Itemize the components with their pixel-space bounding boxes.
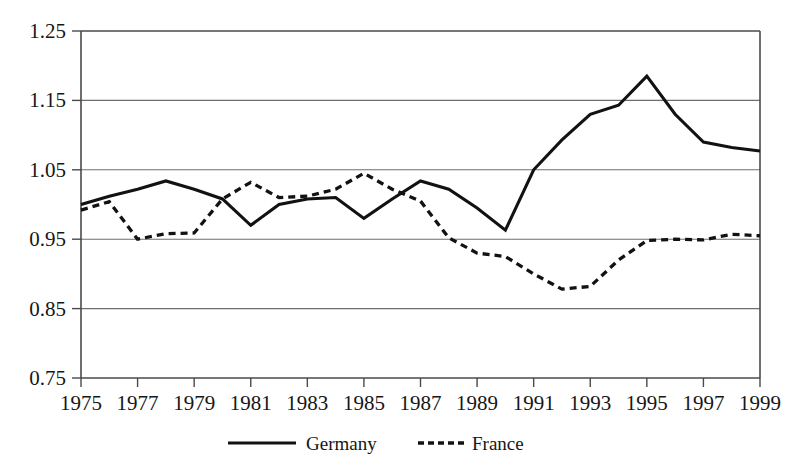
legend-label-france: France (472, 433, 524, 454)
x-tick-label: 1985 (343, 391, 385, 415)
x-axis-ticks (81, 378, 760, 387)
y-tick-label: 1.15 (29, 88, 66, 112)
y-axis-ticks (72, 31, 81, 378)
x-tick-label: 1977 (117, 391, 159, 415)
x-tick-label: 1979 (173, 391, 215, 415)
x-tick-label: 1997 (682, 391, 724, 415)
x-tick-label: 1991 (513, 391, 555, 415)
x-axis-tick-labels: 1975197719791981198319851987198919911993… (60, 391, 781, 415)
legend-label-germany: Germany (306, 433, 377, 454)
chart-figure: 1.251.151.050.950.850.75 197519771979198… (0, 0, 793, 471)
y-tick-label: 0.85 (29, 297, 66, 321)
x-tick-label: 1987 (400, 391, 442, 415)
x-tick-label: 1983 (286, 391, 328, 415)
x-tick-label: 1981 (230, 391, 272, 415)
x-tick-label: 1989 (456, 391, 498, 415)
y-axis-tick-labels: 1.251.151.050.950.850.75 (29, 19, 66, 390)
y-tick-label: 1.25 (29, 19, 66, 43)
y-tick-label: 1.05 (29, 158, 66, 182)
line-chart: 1.251.151.050.950.850.75 197519771979198… (0, 0, 793, 471)
plot-background (81, 31, 760, 378)
x-tick-label: 1999 (739, 391, 781, 415)
x-tick-label: 1993 (569, 391, 611, 415)
y-tick-label: 0.75 (29, 366, 66, 390)
chart-legend: Germany France (228, 433, 524, 454)
x-tick-label: 1975 (60, 391, 102, 415)
x-tick-label: 1995 (626, 391, 668, 415)
y-tick-label: 0.95 (29, 227, 66, 251)
